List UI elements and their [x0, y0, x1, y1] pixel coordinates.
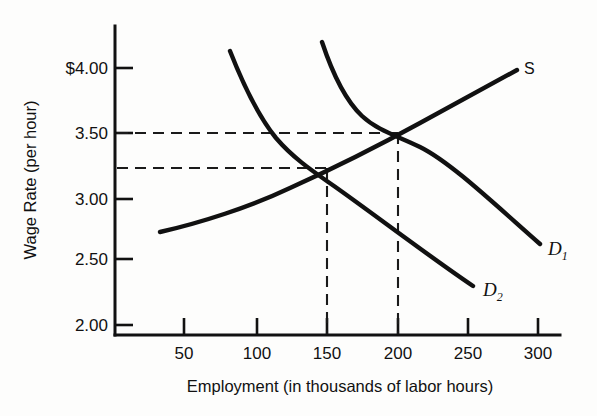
y-tick-label-2.00: 2.00: [75, 316, 108, 335]
x-axis-title: Employment (in thousands of labor hours): [187, 377, 493, 395]
curve-label-D1-letter: D: [547, 238, 562, 259]
y-tick-label-3.50: 3.50: [75, 124, 108, 143]
curve-label-D2-letter: D: [482, 279, 497, 300]
x-tick-labels: 50 100 150 200 250 300: [175, 344, 553, 363]
x-tick-label-200: 200: [384, 344, 412, 363]
curve-label-D2: D2: [482, 279, 503, 304]
labor-market-chart: $4.00 3.50 3.00 2.50 2.00 50 100 150 200…: [0, 0, 597, 416]
curves-group: [160, 42, 540, 286]
y-tick-label-4.00: $4.00: [65, 59, 108, 78]
x-tick-label-300: 300: [524, 344, 552, 363]
x-tick-label-150: 150: [313, 344, 341, 363]
chart-canvas: $4.00 3.50 3.00 2.50 2.00 50 100 150 200…: [0, 0, 597, 416]
x-tick-label-250: 250: [454, 344, 482, 363]
y-tick-marks: [115, 68, 133, 325]
y-tick-label-2.50: 2.50: [75, 250, 108, 269]
x-tick-label-100: 100: [243, 344, 271, 363]
x-tick-marks: [184, 318, 538, 335]
curve-label-D2-subscript: 2: [497, 290, 503, 304]
curve-labels-group: S D1 D2: [482, 60, 568, 304]
curve-label-D1: D1: [547, 238, 568, 263]
y-tick-labels: $4.00 3.50 3.00 2.50 2.00: [65, 59, 108, 335]
curve-label-S: S: [524, 60, 535, 77]
y-axis-title: Wage Rate (per hour): [21, 101, 39, 260]
demand-curve-D1: [322, 42, 540, 244]
curve-label-D1-subscript: 1: [562, 249, 568, 263]
supply-curve-S: [160, 70, 517, 232]
y-tick-label-3.00: 3.00: [75, 190, 108, 209]
x-tick-label-50: 50: [175, 344, 194, 363]
